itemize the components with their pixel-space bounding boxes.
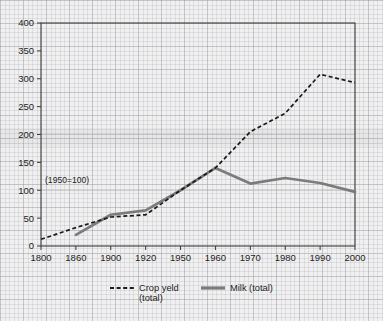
x-tick-label: 1900 — [100, 252, 121, 263]
x-tick-label: 2000 — [344, 252, 365, 263]
x-tick-label: 1990 — [310, 252, 331, 263]
series-line-milk — [76, 168, 355, 235]
y-tick-label: 50 — [23, 213, 34, 224]
y-tick-label: 100 — [18, 185, 34, 196]
y-tick-label: 200 — [18, 129, 34, 140]
series-line-crop-yield — [41, 74, 355, 239]
chart-legend: Crop yeld (total) Milk (total) — [110, 283, 273, 303]
y-tick-label: 400 — [18, 17, 34, 28]
y-axis: 050100150200250300350400 — [18, 17, 41, 251]
y-tick-label: 0 — [29, 240, 34, 251]
x-tick-label: 1960 — [205, 252, 226, 263]
y-tick-label: 350 — [18, 45, 34, 56]
x-axis: 1800186019001920195019601970198019902000 — [30, 246, 365, 263]
y-tick-label: 300 — [18, 73, 34, 84]
x-tick-label: 1970 — [240, 252, 261, 263]
x-tick-label: 1800 — [30, 252, 51, 263]
y-tick-label: 150 — [18, 157, 34, 168]
legend-label-crop-yield-line2: (total) — [139, 293, 163, 303]
x-tick-label: 1920 — [135, 252, 156, 263]
x-tick-label: 1860 — [65, 252, 86, 263]
baseline-annotation: (1950=100) — [45, 175, 89, 185]
legend-label-milk: Milk (total) — [230, 283, 273, 293]
line-chart: 050100150200250300350400 180018601900192… — [0, 0, 383, 321]
x-tick-label: 1980 — [275, 252, 296, 263]
y-tick-label: 250 — [18, 101, 34, 112]
x-tick-label: 1950 — [170, 252, 191, 263]
legend-label-crop-yield-line1: Crop yeld — [139, 283, 179, 293]
